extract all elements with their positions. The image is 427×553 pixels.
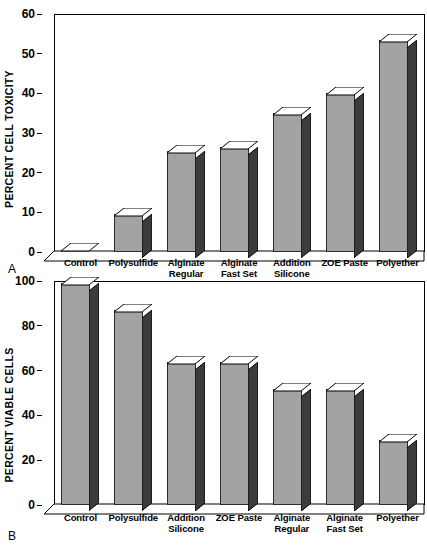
bar-side-face — [354, 93, 364, 252]
plot-area-b — [44, 281, 425, 515]
y-tick-label: 20 — [22, 454, 35, 466]
y-tick-label: 40 — [22, 87, 35, 99]
x-axis-label-line: Silicone — [154, 524, 219, 535]
bar-front-face — [167, 151, 196, 252]
bar-column — [379, 434, 417, 505]
bar-3d — [379, 434, 417, 505]
y-tick-mark — [37, 172, 42, 173]
bar-top-face — [379, 434, 417, 442]
bar-top-face — [114, 208, 152, 216]
bar-front-face — [379, 40, 408, 252]
bar-top-face — [167, 356, 205, 364]
bar-front-face — [114, 310, 143, 505]
bar-front-face — [220, 362, 249, 505]
bar-column — [326, 383, 364, 505]
y-tick-label: 40 — [22, 409, 35, 421]
y-tick-label: 80 — [22, 319, 35, 331]
bar-column — [167, 356, 205, 505]
bar-front-face — [114, 214, 143, 252]
bar-side-face — [89, 283, 99, 505]
bar-top-face — [220, 356, 258, 364]
bar-column — [220, 141, 258, 252]
bar-column — [326, 87, 364, 252]
bar-side-face — [142, 214, 152, 252]
bar-column — [114, 208, 152, 252]
x-axis-label-line: Polyether — [365, 513, 427, 524]
bar-3d — [273, 107, 311, 252]
bar-column — [220, 356, 258, 505]
bar-3d — [220, 141, 258, 252]
bar-3d — [114, 304, 152, 505]
y-tick-mark — [37, 370, 42, 371]
bar-front-face — [61, 283, 90, 505]
y-tick-mark — [37, 415, 42, 416]
bar-column — [61, 277, 99, 505]
bar-3d — [114, 208, 152, 252]
bar-top-face — [273, 383, 311, 391]
y-tick-mark — [37, 325, 42, 326]
y-tick-label: 0 — [28, 499, 35, 511]
bar-top-face — [61, 243, 99, 251]
y-tick-mark — [37, 281, 42, 282]
bar-top-face — [167, 145, 205, 153]
x-axis-label: Polyether — [365, 258, 427, 269]
y-tick-mark — [37, 93, 42, 94]
bar-3d — [379, 34, 417, 252]
y-tick-label: 0 — [28, 246, 35, 258]
bar-side-face — [248, 362, 258, 505]
bar-front-face — [379, 440, 408, 505]
bar-3d — [167, 356, 205, 505]
bar-side-face — [142, 310, 152, 505]
y-tick-mark — [37, 133, 42, 134]
bar-side-face — [248, 147, 258, 252]
x-axis-label-line: Fast Set — [312, 524, 377, 535]
bar-side-face — [407, 40, 417, 252]
x-axis-label: Polyether — [365, 513, 427, 524]
bar-front-face — [167, 362, 196, 505]
bar-side-face — [195, 151, 205, 252]
bar-front-face — [220, 147, 249, 252]
bar-column — [61, 243, 99, 252]
bar-top-face — [326, 87, 364, 95]
bar-top-face — [220, 141, 258, 149]
bar-3d — [326, 383, 364, 505]
y-tick-mark — [37, 212, 42, 213]
bar-side-face — [301, 389, 311, 505]
bar-front-face — [326, 389, 355, 505]
bar-series-a — [54, 14, 424, 252]
bar-side-face — [301, 113, 311, 252]
plot-area-a — [44, 14, 425, 262]
y-tick-mark — [37, 14, 42, 15]
bar-column — [167, 145, 205, 252]
chart-panel-b: PERCENT VIABLE CELLS 020406080100 Contro… — [0, 277, 427, 553]
bar-top-face — [326, 383, 364, 391]
bar-side-face — [195, 362, 205, 505]
y-tick-mark — [37, 460, 42, 461]
bar-top-face — [61, 277, 99, 285]
y-tick-label: 30 — [22, 127, 35, 139]
y-tick-label: 20 — [22, 166, 35, 178]
bar-column — [379, 34, 417, 252]
y-tick-label: 60 — [22, 8, 35, 20]
bar-3d — [61, 277, 99, 505]
bar-column — [273, 383, 311, 505]
bar-3d — [220, 356, 258, 505]
y-tick-label: 100 — [15, 275, 35, 287]
bar-column — [114, 304, 152, 505]
bar-3d — [167, 145, 205, 252]
panel-letter-b: B — [8, 529, 16, 543]
bar-top-face — [114, 304, 152, 312]
bar-column — [273, 107, 311, 252]
y-tick-label: 50 — [22, 47, 35, 59]
y-tick-mark — [37, 252, 42, 253]
bar-front-face — [273, 389, 302, 505]
bar-series-b — [54, 281, 424, 505]
y-tick-mark — [37, 53, 42, 54]
y-axis-ticks-a: 0102030405060 — [12, 0, 42, 277]
bar-side-face — [407, 440, 417, 505]
bar-3d — [273, 383, 311, 505]
chart-panel-a: PERCENT CELL TOXICITY 0102030405060 Cont… — [0, 0, 427, 277]
bar-front-face — [326, 93, 355, 252]
bar-side-face — [354, 389, 364, 505]
y-tick-mark — [37, 505, 42, 506]
